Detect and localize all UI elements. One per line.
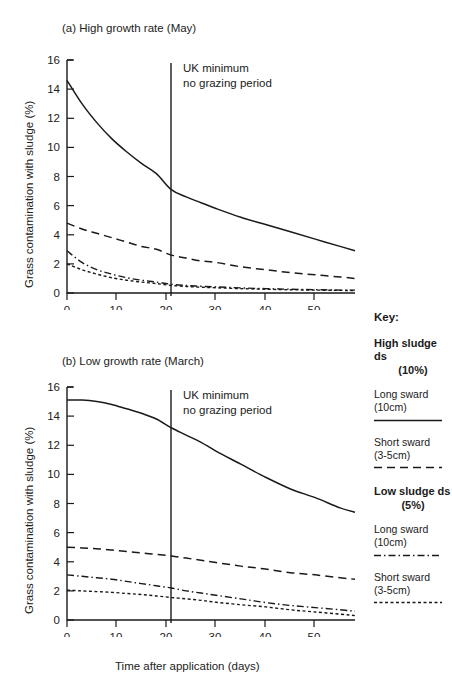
x-tick-50: 50 xyxy=(308,631,321,637)
x-tick-40: 40 xyxy=(259,304,272,310)
y-tick-6: 6 xyxy=(54,200,60,212)
y-tick-2: 2 xyxy=(54,585,60,597)
chart-panel-a: 16 14 12 10 8 6 4 2 0 0 10 20 30 40 50 U… xyxy=(0,45,370,310)
annotation-line-1: UK minimum xyxy=(183,389,249,401)
key-group-high-heading: High sludge ds (10%) xyxy=(374,337,452,377)
key-item-low-short: Short sward (3-5cm) xyxy=(374,571,452,608)
chart-panel-b: 16 14 12 10 8 6 4 2 0 0 10 20 30 40 50 U… xyxy=(0,372,370,637)
x-axis-label: Time after application (days) xyxy=(115,660,260,672)
series-high-long-a xyxy=(67,80,355,250)
key-item-high-long-line1: Long sward xyxy=(374,388,452,401)
series-high-short-b xyxy=(67,547,355,579)
figure-page: (a) High growth rate (May) Grass contami… xyxy=(0,0,452,683)
chart-a-svg: 16 14 12 10 8 6 4 2 0 0 10 20 30 40 50 U… xyxy=(0,45,370,310)
chart-a-y-tick-labels: 16 14 12 10 8 6 4 2 0 xyxy=(47,54,60,299)
y-tick-2: 2 xyxy=(54,258,60,270)
chart-a-axes xyxy=(67,60,355,293)
series-high-long-b xyxy=(67,400,355,512)
chart-b-y-tick-labels: 16 14 12 10 8 6 4 2 0 xyxy=(47,381,60,626)
x-tick-0: 0 xyxy=(64,631,70,637)
key-item-low-long-line1: Long sward xyxy=(374,523,452,536)
key-item-low-long-line2: (10cm) xyxy=(374,536,452,549)
key-group-high-percent: (10%) xyxy=(374,364,452,377)
key-group-low-heading: Low sludge ds (5%) xyxy=(374,485,452,512)
chart-b-x-ticks xyxy=(67,620,314,627)
y-tick-0: 0 xyxy=(54,614,60,626)
key-item-low-short-line1: Short sward xyxy=(374,571,452,584)
axis-lines xyxy=(67,387,355,620)
y-tick-10: 10 xyxy=(47,468,60,480)
key-swatch-dotted xyxy=(374,598,446,607)
chart-b-axes xyxy=(67,387,355,620)
y-tick-12: 12 xyxy=(47,112,60,124)
x-tick-40: 40 xyxy=(259,631,272,637)
key-group-low-sludge: Low sludge ds (5%) Long sward (10cm) Sho… xyxy=(374,485,452,607)
key-item-high-long-line2: (10cm) xyxy=(374,401,452,414)
x-tick-0: 0 xyxy=(64,304,70,310)
x-tick-10: 10 xyxy=(110,304,123,310)
key-item-high-short: Short sward (3-5cm) xyxy=(374,436,452,473)
x-tick-30: 30 xyxy=(209,304,222,310)
y-tick-8: 8 xyxy=(54,171,60,183)
y-tick-16: 16 xyxy=(47,381,60,393)
y-tick-12: 12 xyxy=(47,439,60,451)
series-low-long-b xyxy=(67,575,355,611)
key-group-high-sludge: High sludge ds (10%) Long sward (10cm) S… xyxy=(374,337,452,472)
y-tick-4: 4 xyxy=(54,229,61,241)
y-tick-6: 6 xyxy=(54,527,60,539)
annotation-line-2: no grazing period xyxy=(183,404,272,416)
series-high-short-a xyxy=(67,223,355,278)
key-item-high-long: Long sward (10cm) xyxy=(374,388,452,425)
chart-a-y-ticks xyxy=(67,60,74,293)
chart-a-series xyxy=(67,80,355,290)
chart-a-x-tick-labels: 0 10 20 30 40 50 xyxy=(64,304,321,310)
chart-b-y-ticks xyxy=(67,387,74,620)
chart-b-x-tick-labels: 0 10 20 30 40 50 xyxy=(64,631,321,637)
x-tick-20: 20 xyxy=(160,631,173,637)
x-tick-50: 50 xyxy=(308,304,321,310)
key-item-high-short-line2: (3-5cm) xyxy=(374,449,452,462)
key-group-high-label: High sludge ds xyxy=(374,337,437,362)
chart-b-series xyxy=(67,400,355,616)
key-item-low-short-line2: (3-5cm) xyxy=(374,584,452,597)
panel-a-title: (a) High growth rate (May) xyxy=(62,22,196,34)
y-tick-4: 4 xyxy=(54,556,61,568)
key-group-low-label: Low sludge ds xyxy=(374,485,450,497)
y-tick-10: 10 xyxy=(47,141,60,153)
key-item-high-short-line1: Short sward xyxy=(374,436,452,449)
x-tick-20: 20 xyxy=(160,304,173,310)
annotation-line-2: no grazing period xyxy=(183,77,272,89)
annotation-line-1: UK minimum xyxy=(183,62,249,74)
y-tick-8: 8 xyxy=(54,498,60,510)
x-tick-10: 10 xyxy=(110,631,123,637)
y-tick-0: 0 xyxy=(54,287,60,299)
key-item-low-long: Long sward (10cm) xyxy=(374,523,452,560)
key-swatch-dashed xyxy=(374,463,446,472)
key-swatch-solid xyxy=(374,416,446,425)
key-swatch-dash-dot xyxy=(374,551,446,560)
y-tick-16: 16 xyxy=(47,54,60,66)
chart-b-svg: 16 14 12 10 8 6 4 2 0 0 10 20 30 40 50 U… xyxy=(0,372,370,637)
series-low-long-a xyxy=(67,251,355,290)
y-tick-14: 14 xyxy=(47,83,60,95)
axis-lines xyxy=(67,60,355,293)
y-tick-14: 14 xyxy=(47,410,60,422)
key-group-low-percent: (5%) xyxy=(374,499,452,512)
chart-a-x-ticks xyxy=(67,293,314,300)
key-title: Key: xyxy=(374,310,452,324)
x-tick-30: 30 xyxy=(209,631,222,637)
chart-key: Key: High sludge ds (10%) Long sward (10… xyxy=(374,310,452,607)
panel-b-title: (b) Low growth rate (March) xyxy=(62,355,204,367)
